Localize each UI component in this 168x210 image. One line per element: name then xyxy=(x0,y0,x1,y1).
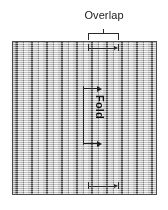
overlap-edge-line-top xyxy=(89,48,115,49)
bracket-left-leg xyxy=(88,33,89,40)
overlap-label: Overlap xyxy=(66,9,142,22)
bracket-crossbar xyxy=(88,33,119,34)
overlap-edge-tick-top-right xyxy=(118,44,119,51)
fold-arrow-arm-bottom xyxy=(83,143,98,144)
fabric-overlap-diagram: Overlap Fold xyxy=(0,0,168,210)
fold-tick-bottom xyxy=(83,139,84,145)
fold-label: Fold xyxy=(93,85,107,129)
overlap-edge-line-bottom xyxy=(89,186,115,187)
overlap-bracket xyxy=(88,29,119,40)
fold-arrow-head-bottom xyxy=(97,141,102,147)
fold-spine-line xyxy=(83,88,84,145)
overlap-edge-tick-bottom-right xyxy=(118,182,119,189)
bracket-right-leg xyxy=(118,33,119,40)
